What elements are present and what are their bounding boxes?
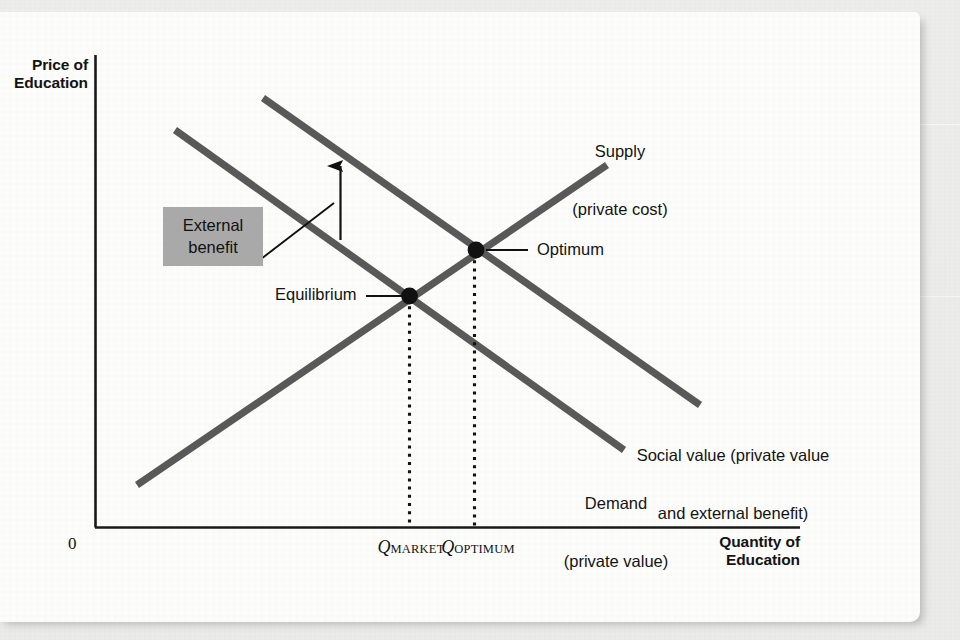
supply-label-line1: Supply — [520, 142, 720, 161]
external-benefit-line2: benefit — [188, 237, 238, 258]
origin-label: 0 — [68, 534, 77, 554]
externality-graph: Price of Education Quantity of Education… — [0, 0, 960, 640]
external-benefit-callout: External benefit — [163, 207, 263, 266]
y-axis-title: Price of Education — [0, 56, 88, 93]
curve-label-social-value: Social value (private value and external… — [568, 407, 898, 563]
curve-label-supply: Supply (private cost) — [520, 103, 720, 259]
point-label-optimum: Optimum — [537, 240, 604, 259]
q-optimum-subscript: OPTIMUM — [454, 542, 514, 556]
point-equilibrium — [401, 288, 418, 305]
q-market-symbol: Q — [378, 537, 391, 557]
social-label-line2: and external benefit) — [568, 504, 898, 523]
point-optimum — [468, 242, 485, 259]
q-market-subscript: MARKET — [391, 542, 445, 556]
x-tick-q-market: QMARKET — [378, 537, 445, 558]
social-label-line1: Social value (private value — [568, 446, 898, 465]
x-tick-q-optimum: QOPTIMUM — [441, 537, 514, 558]
external-benefit-line1: External — [183, 215, 244, 236]
q-optimum-symbol: Q — [441, 537, 454, 557]
point-label-equilibrium: Equilibrium — [275, 285, 357, 304]
supply-label-line2: (private cost) — [520, 200, 720, 219]
leader-line-external-benefit — [261, 203, 334, 259]
